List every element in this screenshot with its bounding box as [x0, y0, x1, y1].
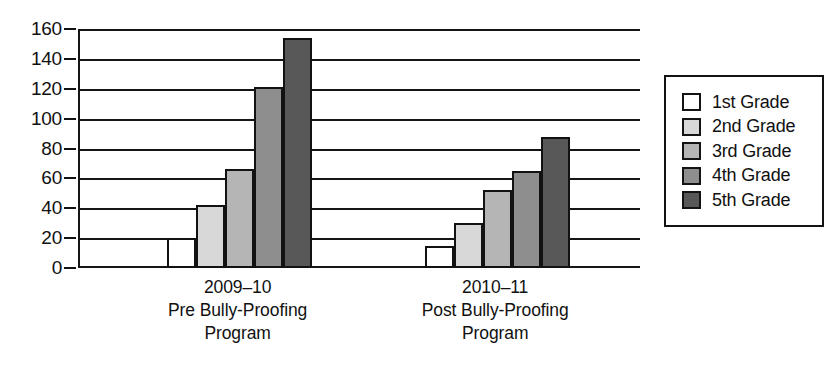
bar-chart-figure: 020406080100120140160 2009–10Pre Bully-P…: [0, 0, 840, 366]
x-axis-category-label-line: Program: [123, 322, 353, 345]
bar[interactable]: [167, 238, 196, 268]
y-axis-tick-mark: [64, 177, 76, 179]
bar-group: [425, 29, 570, 268]
legend-item[interactable]: 2nd Grade: [682, 116, 812, 137]
x-axis-category-label: 2009–10Pre Bully-ProofingProgram: [123, 276, 353, 345]
bar[interactable]: [283, 38, 312, 268]
bar[interactable]: [225, 169, 254, 268]
y-axis-tick-label: 120: [31, 78, 62, 100]
legend-item-label: 5th Grade: [712, 190, 790, 211]
bar[interactable]: [483, 190, 512, 268]
y-axis-tick-mark: [64, 58, 76, 60]
bar[interactable]: [425, 246, 454, 268]
y-axis-tick-mark: [64, 28, 76, 30]
y-axis-tick-label: 100: [31, 108, 62, 130]
legend-item-label: 1st Grade: [712, 92, 789, 113]
legend-item-label: 4th Grade: [712, 165, 790, 186]
y-axis-tick-label: 140: [31, 48, 62, 70]
x-axis-category-label-line: 2009–10: [123, 276, 353, 299]
legend-item[interactable]: 3rd Grade: [682, 141, 812, 162]
y-axis-tick-label: 80: [41, 138, 62, 160]
legend-item[interactable]: 4th Grade: [682, 165, 812, 186]
legend-swatch-icon: [682, 167, 701, 185]
x-axis-category-label-line: 2010–11: [380, 276, 610, 299]
x-axis-category-label-line: Post Bully-Proofing: [380, 299, 610, 322]
y-axis-tick-mark: [64, 207, 76, 209]
y-axis: 020406080100120140160: [0, 0, 78, 366]
legend: 1st Grade2nd Grade3rd Grade4th Grade5th …: [664, 75, 824, 227]
y-axis-tick-mark: [64, 148, 76, 150]
bar[interactable]: [512, 171, 541, 268]
y-axis-tick-mark: [64, 118, 76, 120]
y-axis-tick-label: 0: [52, 257, 62, 279]
y-axis-tick-mark: [64, 267, 76, 269]
legend-swatch-icon: [682, 118, 701, 136]
bar-group: [167, 29, 312, 268]
legend-swatch-icon: [682, 93, 701, 111]
legend-item-label: 3rd Grade: [712, 141, 791, 162]
x-axis-category-label-line: Pre Bully-Proofing: [123, 299, 353, 322]
plot-area-wrapper: 020406080100120140160 2009–10Pre Bully-P…: [0, 0, 650, 366]
bar[interactable]: [541, 137, 570, 268]
y-axis-tick-mark: [64, 237, 76, 239]
plot-area: [78, 29, 640, 268]
x-axis-category-label-line: Program: [380, 322, 610, 345]
bar[interactable]: [254, 87, 283, 268]
legend-swatch-icon: [682, 191, 701, 209]
legend-item[interactable]: 5th Grade: [682, 190, 812, 211]
x-axis-category-label: 2010–11Post Bully-ProofingProgram: [380, 276, 610, 345]
y-axis-tick-label: 160: [31, 18, 62, 40]
y-axis-tick-label: 40: [41, 197, 62, 219]
bar[interactable]: [196, 205, 225, 268]
bar-groups: [80, 29, 640, 268]
y-axis-tick-label: 20: [41, 227, 62, 249]
bar[interactable]: [454, 223, 483, 268]
y-axis-tick-mark: [64, 88, 76, 90]
legend-item[interactable]: 1st Grade: [682, 92, 812, 113]
legend-swatch-icon: [682, 142, 701, 160]
legend-item-label: 2nd Grade: [712, 116, 795, 137]
y-axis-tick-label: 60: [41, 167, 62, 189]
